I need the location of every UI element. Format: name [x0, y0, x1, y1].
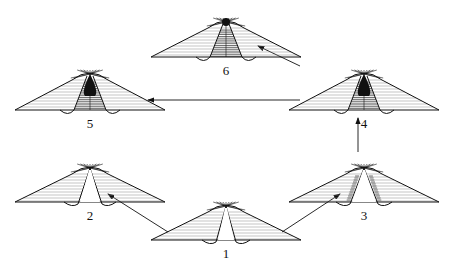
- stage-6: [151, 18, 301, 61]
- arrow-1-to-3: [282, 194, 340, 232]
- diagram-canvas: [0, 0, 451, 277]
- stage-label-1: 1: [223, 246, 230, 262]
- stage-5: [15, 70, 165, 114]
- stage-label-5: 5: [87, 116, 94, 132]
- stage-3: [289, 164, 439, 206]
- arrow-1-to-2: [108, 194, 168, 232]
- stage-label-4: 4: [361, 116, 368, 132]
- stage-4: [289, 70, 439, 114]
- stage-1: [151, 202, 301, 244]
- stage-label-6: 6: [223, 63, 230, 79]
- stage-label-3: 3: [361, 208, 368, 224]
- stages-group: [15, 18, 439, 244]
- stage-label-2: 2: [87, 208, 94, 224]
- stage-2: [15, 164, 165, 206]
